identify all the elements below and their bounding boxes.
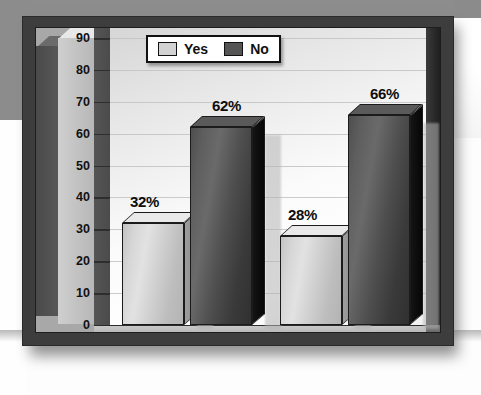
y-axis-tick-label: 20 xyxy=(58,255,90,268)
floor-top-face xyxy=(94,325,426,333)
bar-shadow xyxy=(265,135,281,329)
bar-top-face xyxy=(122,212,196,223)
y-axis-tick-label: 30 xyxy=(58,223,90,236)
y-axis-scale-strip xyxy=(58,38,95,324)
left-wall-face xyxy=(36,46,59,316)
y-axis-tick-label: 90 xyxy=(58,32,90,45)
bar-shadow xyxy=(423,123,439,329)
y-axis-tick-label: 80 xyxy=(58,64,90,77)
axis-ridge xyxy=(94,70,110,72)
axis-ridge xyxy=(94,229,110,231)
y-axis-tick-label: 40 xyxy=(58,191,90,204)
value-label-no-group-1: 62% xyxy=(212,97,241,114)
legend-swatch-yes xyxy=(158,42,177,56)
value-label-no-group-2: 66% xyxy=(370,85,399,102)
bar-top-face xyxy=(190,116,264,127)
bar-no-group-1[interactable] xyxy=(190,127,252,325)
y-axis-tick-label: 0 xyxy=(58,319,90,332)
gridline xyxy=(110,102,426,103)
axis-ridge xyxy=(94,38,110,40)
y-axis-tick-label: 70 xyxy=(58,96,90,109)
gridline xyxy=(110,70,426,71)
legend-swatch-no xyxy=(224,42,243,56)
legend-item-no: No xyxy=(224,41,269,57)
bar-yes-group-1[interactable] xyxy=(122,223,184,325)
bar-yes-group-2[interactable] xyxy=(280,236,342,325)
y-axis-tick-label: 60 xyxy=(58,128,90,141)
axis-ridge xyxy=(94,102,110,104)
legend-item-yes: Yes xyxy=(158,41,208,57)
value-label-yes-group-2: 28% xyxy=(288,206,317,223)
bar-chart-3d: 0102030405060708090 32%62%28%66% Yes No xyxy=(36,28,440,332)
y-axis-tick-label: 50 xyxy=(58,160,90,173)
bar-no-group-2[interactable] xyxy=(348,115,410,325)
y-axis-tick-label: 10 xyxy=(58,287,90,300)
axis-ridge xyxy=(94,293,110,295)
bar-front-face xyxy=(348,115,410,325)
back-wall-band xyxy=(94,28,110,325)
bar-front-face xyxy=(280,236,342,325)
legend-label-no: No xyxy=(250,41,269,57)
value-label-yes-group-1: 32% xyxy=(130,193,159,210)
bar-side-face xyxy=(410,104,423,325)
chart-frame: 0102030405060708090 32%62%28%66% Yes No xyxy=(22,16,454,346)
bar-top-face xyxy=(348,104,422,115)
axis-ridge xyxy=(94,166,110,168)
axis-ridge xyxy=(94,134,110,136)
chart-legend: Yes No xyxy=(146,35,281,63)
axis-ridge xyxy=(94,197,110,199)
legend-label-yes: Yes xyxy=(184,41,208,57)
bar-front-face xyxy=(190,127,252,325)
chart-inner-panel: 0102030405060708090 32%62%28%66% Yes No xyxy=(35,27,441,333)
chart-screenshot: 0102030405060708090 32%62%28%66% Yes No xyxy=(0,0,481,395)
bar-top-face xyxy=(280,225,354,236)
axis-ridge xyxy=(94,261,110,263)
bar-front-face xyxy=(122,223,184,325)
bar-side-face xyxy=(252,116,265,325)
